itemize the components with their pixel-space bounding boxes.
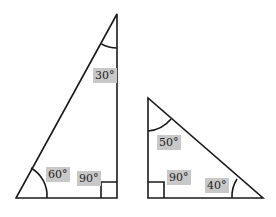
angle-arc-30: [102, 44, 118, 48]
angle-arc-40: [232, 179, 237, 198]
angle-label-50: 50°: [157, 135, 181, 150]
angle-arc-60: [31, 168, 47, 198]
right-angle-marker-left: [101, 182, 117, 198]
angle-label-90-left: 90°: [77, 171, 101, 186]
angle-label-30: 30°: [93, 68, 117, 83]
angle-label-90-right: 90°: [167, 170, 191, 185]
angle-arc-50: [148, 119, 171, 131]
angle-label-40: 40°: [205, 178, 229, 193]
right-angle-marker-right: [148, 182, 164, 198]
angle-label-60: 60°: [46, 167, 70, 182]
triangles-diagram: [0, 0, 276, 217]
